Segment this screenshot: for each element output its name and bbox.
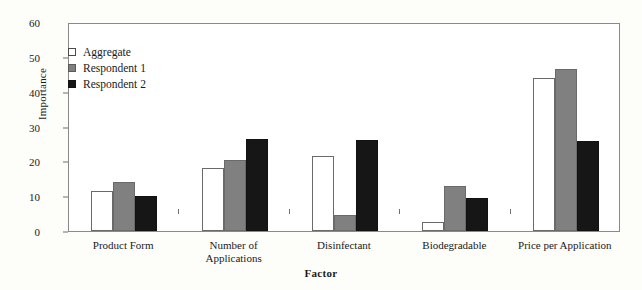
y-axis-tick-label: 20 <box>0 157 40 168</box>
x-axis-tick-mark <box>510 209 511 214</box>
y-axis-tick-mark <box>63 162 68 163</box>
y-axis-tick-label: 60 <box>0 18 40 29</box>
x-axis-category-label: Price per Application <box>510 239 620 252</box>
legend-item: Respondent 2 <box>68 76 146 91</box>
bar-resp2 <box>246 139 268 231</box>
plot-area <box>68 23 620 232</box>
bar-aggregate <box>533 78 555 231</box>
legend-swatch-icon <box>68 48 76 56</box>
legend-swatch-icon <box>68 80 76 88</box>
bar-resp1 <box>555 69 577 231</box>
y-axis-tick-mark <box>63 197 68 198</box>
legend-item: Aggregate <box>68 44 146 59</box>
bar-resp2 <box>577 141 599 231</box>
x-axis-tick-mark <box>399 209 400 214</box>
y-axis-tick-label: 10 <box>0 192 40 203</box>
x-axis-tick-mark <box>178 209 179 214</box>
legend-item-label: Respondent 1 <box>83 62 146 74</box>
bar-aggregate <box>312 156 334 231</box>
x-axis-category-label: Disinfectant <box>289 239 399 252</box>
legend-item-label: Respondent 2 <box>83 78 146 90</box>
y-axis-tick-mark <box>63 92 68 93</box>
bar-resp1 <box>334 215 356 231</box>
y-axis-tick-mark <box>63 232 68 233</box>
chart-legend: AggregateRespondent 1Respondent 2 <box>68 44 146 92</box>
y-axis-tick-label: 0 <box>0 227 40 238</box>
bar-aggregate <box>91 191 113 231</box>
bar-resp1 <box>444 186 466 231</box>
x-axis-tick-mark <box>289 209 290 214</box>
y-axis-tick-label: 30 <box>0 122 40 133</box>
y-axis-tick-label: 40 <box>0 87 40 98</box>
chart-figure: Importance 0102030405060 Product FormNum… <box>0 0 642 290</box>
x-axis-category-label: Biodegradable <box>399 239 509 252</box>
bar-aggregate <box>422 222 444 231</box>
bar-resp2 <box>356 140 378 231</box>
bar-aggregate <box>202 168 224 231</box>
y-axis-tick-label: 50 <box>0 52 40 63</box>
bar-resp1 <box>113 182 135 231</box>
bar-resp2 <box>466 198 488 231</box>
legend-swatch-icon <box>68 64 76 72</box>
bar-resp1 <box>224 160 246 231</box>
y-axis-tick-mark <box>63 127 68 128</box>
x-axis-category-label: Number of Applications <box>178 239 288 265</box>
x-axis-title: Factor <box>0 267 642 279</box>
bars-layer <box>69 24 619 231</box>
legend-item: Respondent 1 <box>68 60 146 75</box>
x-axis-category-label: Product Form <box>68 239 178 252</box>
legend-item-label: Aggregate <box>83 46 131 58</box>
bar-resp2 <box>135 196 157 231</box>
